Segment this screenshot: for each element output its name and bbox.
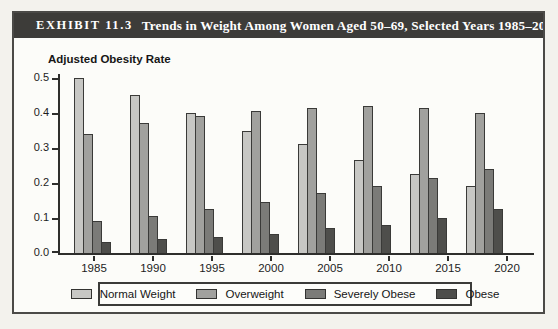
x-axis-tick-2020 xyxy=(506,256,508,261)
legend-label-obese: Obese xyxy=(465,288,499,300)
exhibit-header: EXHIBIT 11.3 Trends in Weight Among Wome… xyxy=(14,13,543,38)
x-axis-tick-2000 xyxy=(270,256,272,261)
x-axis-label-2000: 2000 xyxy=(258,262,284,274)
bar-group-2010 xyxy=(354,106,391,253)
legend-swatch-obese xyxy=(436,289,457,299)
legend-label-normal-weight: Normal Weight xyxy=(100,288,176,300)
bar-obese-2010 xyxy=(381,225,391,253)
x-axis-tick-2015 xyxy=(447,256,449,261)
bar-group-1985 xyxy=(74,78,111,253)
x-axis-label-2015: 2015 xyxy=(435,262,461,274)
y-axis-label-0.3: 0.3 xyxy=(34,141,49,153)
y-axis-tick-0.4 xyxy=(52,113,58,115)
exhibit-title: Trends in Weight Among Women Aged 50–69,… xyxy=(142,18,543,34)
exhibit-number: EXHIBIT 11.3 xyxy=(36,18,133,33)
plot-area: 0.50.40.30.20.10.01985199019952000200520… xyxy=(58,74,534,255)
legend-label-overweight: Overweight xyxy=(225,288,283,300)
bar-obese-2005 xyxy=(325,228,335,253)
legend-swatch-severely-obese xyxy=(305,289,326,299)
y-axis-label-0.4: 0.4 xyxy=(34,106,49,118)
bar-obese-2000 xyxy=(269,234,279,253)
bar-obese-2015 xyxy=(437,218,447,253)
bar-group-1995 xyxy=(186,113,223,253)
bar-obese-2020 xyxy=(493,209,503,253)
legend-item-overweight: Overweight xyxy=(196,288,283,300)
bar-group-2005 xyxy=(298,108,335,253)
y-axis-label-0.5: 0.5 xyxy=(34,71,49,83)
exhibit-box: EXHIBIT 11.3 Trends in Weight Among Wome… xyxy=(12,11,545,314)
y-axis-tick-0.3 xyxy=(52,148,58,150)
y-axis-label-0.2: 0.2 xyxy=(34,176,49,188)
legend-item-normal-weight: Normal Weight xyxy=(71,288,176,300)
bar-groups xyxy=(60,78,534,253)
legend-item-obese: Obese xyxy=(436,288,499,300)
legend-box: Normal WeightOverweightSeverely ObeseObe… xyxy=(98,282,472,306)
x-axis-label-1995: 1995 xyxy=(199,262,225,274)
x-axis-tick-2010 xyxy=(388,256,390,261)
x-axis-label-2005: 2005 xyxy=(317,262,343,274)
bar-group-2015 xyxy=(410,108,447,253)
legend-item-severely-obese: Severely Obese xyxy=(305,288,416,300)
bar-group-1990 xyxy=(130,95,167,253)
bar-group-2020 xyxy=(466,113,503,253)
bar-obese-1990 xyxy=(157,239,167,253)
y-axis-label-0.0: 0.0 xyxy=(34,246,49,258)
legend-swatch-overweight xyxy=(196,289,217,299)
y-axis-tick-0.5 xyxy=(52,78,58,80)
y-axis-tick-0.1 xyxy=(52,218,58,220)
bar-obese-1985 xyxy=(101,242,111,253)
x-axis-tick-1995 xyxy=(211,256,213,261)
page: { "exhibit": { "label": "EXHIBIT 11.3", … xyxy=(0,0,558,329)
x-axis-label-1990: 1990 xyxy=(140,262,166,274)
x-axis-tick-1990 xyxy=(152,256,154,261)
y-axis-tick-0.0 xyxy=(52,251,58,253)
x-axis-label-2020: 2020 xyxy=(494,262,520,274)
chart-title: Adjusted Obesity Rate xyxy=(48,53,171,65)
legend-label-severely-obese: Severely Obese xyxy=(334,288,416,300)
bar-obese-1995 xyxy=(213,237,223,253)
x-axis-tick-2005 xyxy=(329,256,331,261)
x-axis-label-1985: 1985 xyxy=(81,262,107,274)
bar-group-2000 xyxy=(242,111,279,253)
x-axis-label-2010: 2010 xyxy=(376,262,402,274)
y-axis-label-0.1: 0.1 xyxy=(34,211,49,223)
y-axis-tick-0.2 xyxy=(52,183,58,185)
legend-swatch-normal-weight xyxy=(71,289,92,299)
x-axis-tick-1985 xyxy=(93,256,95,261)
